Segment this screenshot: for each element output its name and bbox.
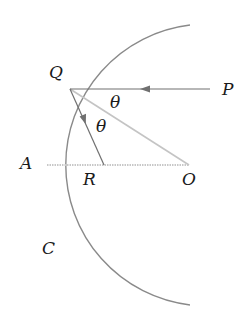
label-C: C	[42, 240, 55, 257]
normal-line-QO	[70, 89, 189, 165]
reflected-ray-arrow-icon	[80, 114, 86, 125]
mirror-diagram	[0, 0, 252, 319]
label-A: A	[20, 155, 32, 172]
label-P: P	[222, 81, 233, 98]
incident-ray-arrow-icon	[140, 86, 150, 93]
label-Q: Q	[49, 64, 63, 81]
label-R: R	[83, 171, 96, 188]
label-O: O	[182, 171, 196, 188]
label-theta-upper: θ	[110, 94, 120, 111]
label-theta-lower: θ	[96, 118, 106, 135]
